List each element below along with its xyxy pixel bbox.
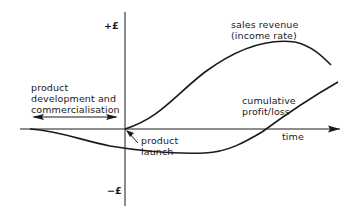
sales-revenue-label-line1: sales revenue (231, 19, 298, 30)
y-axis-positive-label: +£ (104, 20, 119, 31)
development-label-line3: commercialisation (31, 104, 120, 115)
launch-label-line2: launch (141, 146, 173, 157)
development-label-line2: development and (31, 93, 116, 104)
x-axis-label: time (282, 131, 304, 142)
launch-label-line1: product (141, 135, 178, 146)
cumulative-label-line2: profit/loss (242, 106, 290, 117)
cumulative-label-line1: cumulative (242, 95, 296, 106)
sales-revenue-label-line2: (income rate) (231, 30, 297, 41)
development-label-line1: product (31, 82, 68, 93)
launch-pointer-arrowhead (126, 130, 134, 137)
sales-revenue-curve (125, 41, 331, 129)
y-axis-negative-label: −£ (107, 185, 122, 196)
